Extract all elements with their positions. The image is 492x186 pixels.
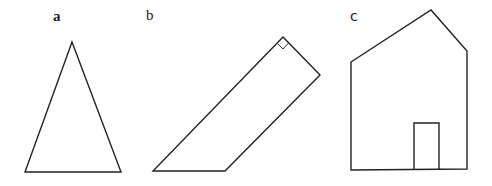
- house-shape: [351, 10, 467, 170]
- shapes-figure: a b c: [0, 0, 492, 186]
- door-shape: [414, 123, 439, 170]
- shapes-canvas: [0, 0, 492, 186]
- right-angle-marker: [278, 43, 289, 49]
- quadrilateral-shape: [153, 37, 320, 171]
- triangle-shape: [25, 42, 121, 172]
